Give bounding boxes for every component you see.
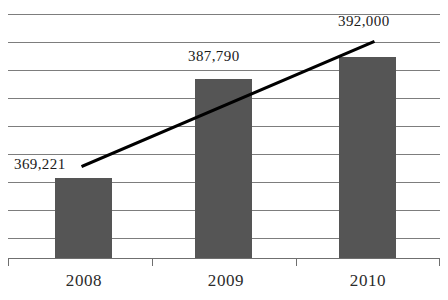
x-axis [8, 258, 440, 266]
x-tick-label-2009: 2009 [184, 272, 268, 289]
bar-2010 [339, 57, 396, 258]
plot-area: 369,221 387,790 392,000 2008 2009 2010 [0, 0, 448, 300]
bar-chart: 369,221 387,790 392,000 2008 2009 2010 [0, 0, 448, 300]
bar-2008 [55, 178, 112, 258]
data-label-2010: 392,000 [338, 14, 390, 29]
data-label-2009: 387,790 [188, 49, 240, 64]
x-tick-label-2008: 2008 [42, 272, 126, 289]
x-tick-label-2010: 2010 [326, 272, 410, 289]
data-label-2008: 369,221 [14, 157, 66, 172]
chart-canvas [0, 0, 448, 300]
